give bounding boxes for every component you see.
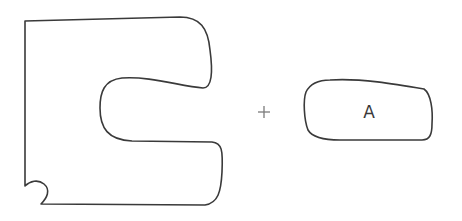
c-shaped-piece: [25, 17, 222, 205]
piece-a-label: A: [363, 102, 375, 122]
plus-icon: [258, 106, 270, 118]
diagram-canvas: A: [0, 0, 462, 221]
